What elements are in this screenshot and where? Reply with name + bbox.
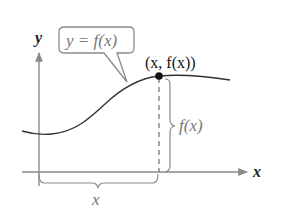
curve-callout: y = f(x)	[59, 27, 134, 82]
point-label: (x, f(x))	[145, 54, 196, 72]
y-axis-label: y	[33, 29, 43, 47]
horizontal-brace	[39, 174, 158, 188]
point-marker	[155, 72, 163, 80]
function-graph-diagram: y x (x, f(x)) f(x) x y = f(x)	[0, 0, 283, 216]
callout-label: y = f(x)	[64, 31, 117, 50]
horizontal-brace-label: x	[91, 190, 100, 209]
vertical-brace	[165, 79, 175, 172]
vertical-brace-label: f(x)	[179, 116, 203, 135]
x-axis-label: x	[252, 163, 261, 180]
